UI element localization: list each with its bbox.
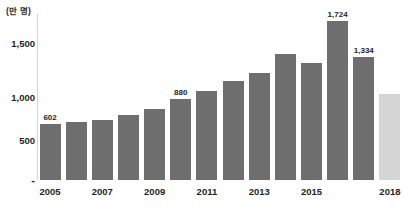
bar-rect — [223, 81, 244, 180]
x-tick-label-2009: 2009 — [144, 186, 165, 197]
bar-rect — [249, 73, 270, 180]
bar-rect — [118, 115, 139, 180]
bar-2013[interactable] — [249, 14, 270, 180]
y-tick-label-1000: 1,000 — [1, 92, 35, 103]
x-tick-label-2013: 2013 — [249, 186, 270, 197]
bar-rect — [92, 120, 113, 180]
x-tick-label-2018: 2018 — [379, 186, 400, 197]
plot-area: 6028801,7241,334 — [37, 14, 403, 180]
bar-2005[interactable]: 602 — [40, 14, 61, 180]
bar-2016[interactable]: 1,724 — [327, 14, 348, 180]
bar-rect — [275, 54, 296, 180]
y-tick-label-500: 500 — [1, 135, 35, 146]
bar-2006[interactable] — [66, 14, 87, 180]
y-tick-label-1500: 1,500 — [1, 38, 35, 49]
bar-value-label-2017: 1,334 — [354, 47, 374, 55]
bar-2014[interactable] — [275, 14, 296, 180]
bar-2010[interactable]: 880 — [170, 14, 191, 180]
bar-2011[interactable] — [196, 14, 217, 180]
bar-rect — [144, 109, 165, 180]
x-axis-labels: 2005200720092011201320152018 — [37, 186, 403, 206]
x-tick-label-2011: 2011 — [197, 186, 218, 197]
bar-2008[interactable] — [118, 14, 139, 180]
x-tick-label-2005: 2005 — [39, 186, 60, 197]
bar-2015[interactable] — [301, 14, 322, 180]
bar-rect — [301, 63, 322, 180]
bar-2012[interactable] — [223, 14, 244, 180]
bar-rect — [40, 124, 61, 180]
bar-value-label-2016: 1,724 — [328, 11, 348, 19]
bar-2018[interactable] — [379, 14, 400, 180]
bar-chart: (만 명) 1,500 1,000 500 - 6028801,7241,334… — [0, 0, 403, 208]
bar-value-label-2010: 880 — [174, 89, 187, 97]
x-tick-label-2015: 2015 — [301, 186, 322, 197]
bar-rect — [327, 21, 348, 180]
bar-value-label-2005: 602 — [43, 114, 56, 122]
y-axis: 1,500 1,000 500 - — [0, 0, 35, 208]
bar-2009[interactable] — [144, 14, 165, 180]
bar-2007[interactable] — [92, 14, 113, 180]
bar-rect — [353, 57, 374, 180]
y-tick-label-zero: - — [1, 174, 35, 186]
bar-rect — [196, 91, 217, 180]
bar-rect — [66, 122, 87, 180]
bar-rect — [170, 99, 191, 180]
bar-2017[interactable]: 1,334 — [353, 14, 374, 180]
bar-rect — [379, 94, 400, 180]
x-tick-label-2007: 2007 — [92, 186, 113, 197]
